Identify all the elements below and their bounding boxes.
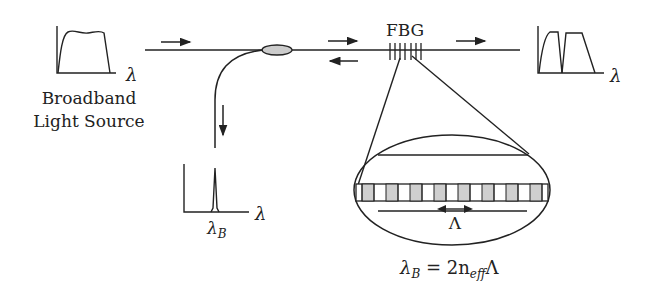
fbg-grating bbox=[390, 43, 421, 60]
reflected-spectrum bbox=[184, 164, 249, 212]
input-lambda-label: λ bbox=[125, 64, 137, 85]
zoom-line-right bbox=[412, 56, 529, 154]
source-label-line1: Broadband bbox=[42, 88, 137, 108]
lambda-b-label: λB bbox=[206, 218, 227, 241]
fbg-diagram: λ Broadband Light Source FBG λ λ λB bbox=[0, 0, 649, 301]
period-label: Λ bbox=[448, 213, 462, 233]
fbg-label: FBG bbox=[386, 20, 424, 40]
reflected-lambda-label: λ bbox=[254, 203, 266, 224]
period-arrow-icon bbox=[437, 205, 473, 213]
transmitted-spectrum bbox=[538, 26, 604, 73]
source-label-line2: Light Source bbox=[33, 111, 144, 131]
coupler bbox=[262, 45, 292, 55]
output-lambda-label: λ bbox=[609, 65, 621, 86]
input-spectrum bbox=[57, 26, 116, 73]
bragg-equation: λB = 2neffΛ bbox=[399, 257, 499, 281]
coupler-branch-fiber bbox=[215, 50, 263, 148]
